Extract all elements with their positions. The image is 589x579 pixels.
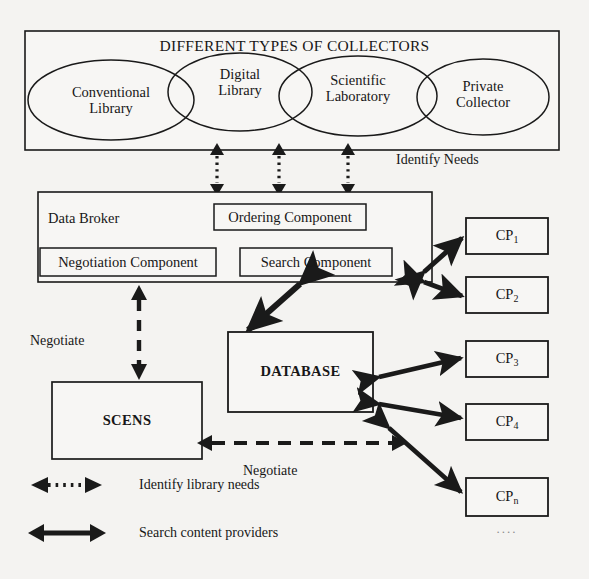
diagram-canvas: DIFFERENT TYPES OF COLLECTORS Convention… <box>0 0 589 579</box>
arrow-search-database <box>248 284 300 330</box>
search-component-box <box>240 248 392 276</box>
cp2-box <box>466 277 548 313</box>
arrow-database-cp4 <box>379 404 461 418</box>
cpn-box <box>466 478 548 516</box>
negotiation-component-box <box>40 248 216 276</box>
dotted-arrow-collectors-broker-3 <box>341 143 355 196</box>
legend-solid-double-arrow-icon <box>28 524 106 542</box>
cp4-box <box>466 404 548 440</box>
dashed-arrow-negotiate-broker-scens <box>131 285 147 380</box>
dotted-arrow-collectors-broker-2 <box>272 143 286 196</box>
cp3-box <box>466 341 548 377</box>
dashed-arrow-negotiate-database-scens <box>197 435 407 451</box>
scens-box <box>52 382 202 459</box>
arrow-database-cp3 <box>379 358 461 377</box>
legend-dotted-double-arrow-icon <box>31 477 102 493</box>
arrow-database-cpn <box>389 428 461 492</box>
ordering-component-box <box>214 204 366 230</box>
cp1-box <box>466 218 548 254</box>
database-box <box>228 332 373 412</box>
dotted-arrow-collectors-broker-1 <box>210 143 224 196</box>
arrow-broker-cp2 <box>424 282 462 296</box>
diagram-vector-layer <box>0 0 589 579</box>
